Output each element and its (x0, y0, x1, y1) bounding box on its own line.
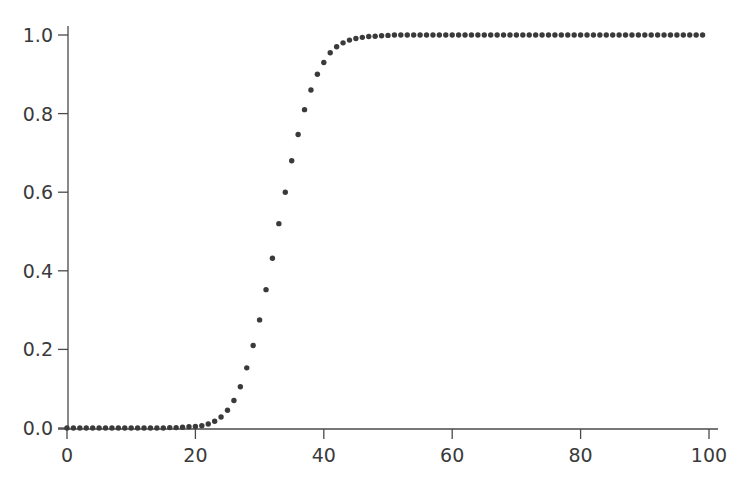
data-point (437, 32, 442, 37)
y-tick-label: 1.0 (23, 24, 53, 46)
x-axis-ticks: 020406080100 (61, 429, 727, 466)
data-point (289, 158, 294, 163)
data-point (129, 425, 134, 430)
x-tick-label: 80 (569, 444, 593, 466)
data-points (64, 32, 705, 430)
data-point (674, 32, 679, 37)
data-point (533, 32, 538, 37)
data-point (218, 414, 223, 419)
data-point (238, 384, 243, 389)
data-point (681, 32, 686, 37)
data-point (199, 423, 204, 428)
data-point (385, 33, 390, 38)
data-point (405, 32, 410, 37)
data-point (167, 425, 172, 430)
data-point (565, 32, 570, 37)
data-point (71, 425, 76, 430)
data-point (379, 33, 384, 38)
data-point (64, 425, 69, 430)
y-tick-label: 0.0 (23, 417, 53, 439)
data-point (173, 425, 178, 430)
data-point (225, 408, 230, 413)
data-point (334, 44, 339, 49)
data-point (552, 32, 557, 37)
data-point (270, 256, 275, 261)
data-point (96, 425, 101, 430)
x-tick-label: 20 (183, 444, 207, 466)
data-point (661, 32, 666, 37)
data-point (308, 87, 313, 92)
data-point (693, 32, 698, 37)
data-point (302, 107, 307, 112)
data-point (687, 32, 692, 37)
data-point (623, 32, 628, 37)
data-point (360, 35, 365, 40)
data-point (668, 32, 673, 37)
data-point (398, 32, 403, 37)
data-point (578, 32, 583, 37)
data-point (591, 32, 596, 37)
data-point (372, 33, 377, 38)
data-point (475, 32, 480, 37)
data-point (520, 32, 525, 37)
data-point (116, 425, 121, 430)
data-point (295, 132, 300, 137)
data-point (443, 32, 448, 37)
y-tick-label: 0.6 (23, 181, 53, 203)
data-point (546, 32, 551, 37)
data-point (571, 32, 576, 37)
data-point (456, 32, 461, 37)
data-point (392, 32, 397, 37)
data-point (161, 425, 166, 430)
data-point (616, 32, 621, 37)
data-point (629, 32, 634, 37)
data-point (559, 32, 564, 37)
data-point (482, 32, 487, 37)
data-point (604, 32, 609, 37)
data-point (250, 343, 255, 348)
x-tick-label: 60 (440, 444, 464, 466)
data-point (655, 32, 660, 37)
data-point (122, 425, 127, 430)
data-point (700, 32, 705, 37)
data-point (141, 425, 146, 430)
data-point (462, 32, 467, 37)
data-point (283, 190, 288, 195)
data-point (315, 72, 320, 77)
data-point (135, 425, 140, 430)
data-point (186, 424, 191, 429)
data-point (488, 32, 493, 37)
data-point (430, 32, 435, 37)
data-point (507, 32, 512, 37)
data-point (321, 60, 326, 65)
sigmoid-scatter-chart: 0.00.20.40.60.81.0 020406080100 (0, 0, 746, 486)
data-point (77, 425, 82, 430)
axes (58, 26, 718, 429)
data-point (103, 425, 108, 430)
data-point (148, 425, 153, 430)
data-point (514, 32, 519, 37)
data-point (109, 425, 114, 430)
data-point (411, 32, 416, 37)
data-point (469, 32, 474, 37)
y-tick-label: 0.8 (23, 103, 53, 125)
data-point (276, 221, 281, 226)
data-point (584, 32, 589, 37)
data-point (347, 37, 352, 42)
data-point (340, 40, 345, 45)
data-point (494, 32, 499, 37)
x-tick-label: 100 (691, 444, 727, 466)
data-point (366, 34, 371, 39)
data-point (231, 398, 236, 403)
data-point (539, 32, 544, 37)
data-point (328, 50, 333, 55)
data-point (84, 425, 89, 430)
data-point (180, 425, 185, 430)
data-point (193, 424, 198, 429)
data-point (212, 419, 217, 424)
data-point (636, 32, 641, 37)
data-point (257, 317, 262, 322)
data-point (244, 365, 249, 370)
data-point (90, 425, 95, 430)
data-point (263, 287, 268, 292)
